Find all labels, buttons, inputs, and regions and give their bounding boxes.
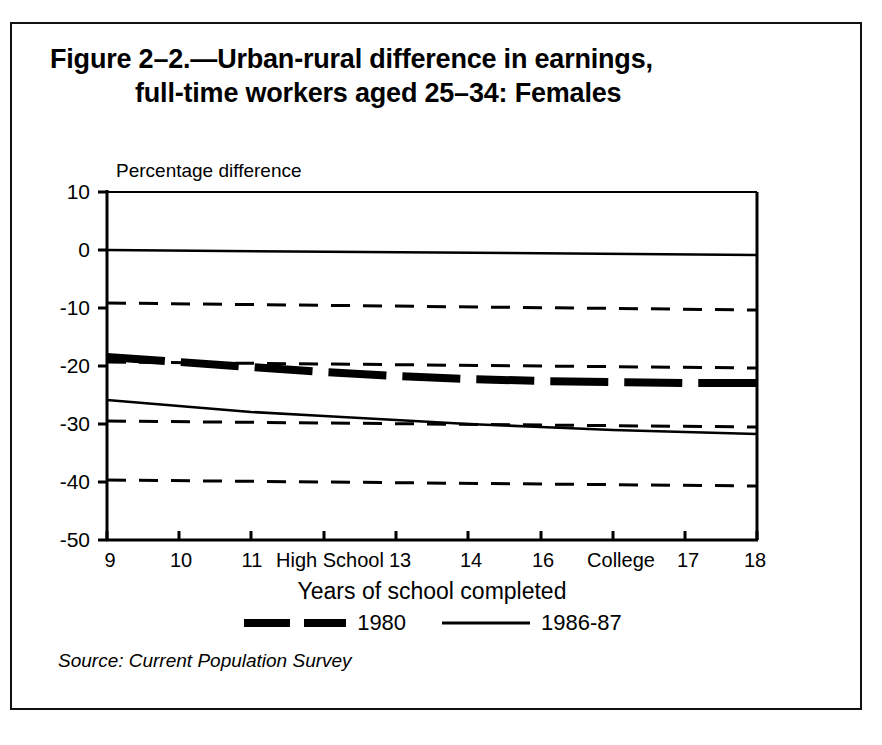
x-tick-label-11: 11 [242, 550, 263, 570]
x-tick-label-10: 10 [170, 550, 192, 570]
y-tick-label-neg40: -40 [28, 471, 90, 492]
x-tick-label-college: College [587, 550, 655, 570]
series-line-1986-87 [107, 400, 757, 434]
chart-legend: 1980 1986-87 [107, 612, 757, 634]
y-tick-label-0: 0 [28, 239, 90, 260]
legend-swatch-1980 [242, 616, 348, 630]
legend-entry-1980: 1980 [242, 612, 406, 634]
x-tick-label-9: 9 [104, 550, 115, 570]
x-tick-label-16: 16 [532, 550, 554, 570]
x-axis-title: Years of school completed [107, 578, 757, 605]
chart-plot-area: Percentage difference 10 0 -10 -20 -30 -… [0, 0, 882, 745]
y-tick-label-neg50: -50 [28, 529, 90, 550]
x-tick-label-13: 13 [389, 550, 411, 570]
y-tick-label-neg20: -20 [28, 355, 90, 376]
legend-swatch-1986-87 [440, 616, 532, 630]
x-tick-label-18: 18 [744, 550, 766, 570]
y-tick-label-neg30: -30 [28, 413, 90, 434]
source-note: Source: Current Population Survey [58, 650, 352, 672]
y-tick-label-10: 10 [28, 181, 90, 202]
gridlines [107, 303, 757, 486]
series-line-1980 [107, 357, 757, 383]
x-tick-label-14: 14 [460, 550, 482, 570]
x-tick-label-17: 17 [677, 550, 699, 570]
y-axis-title: Percentage difference [116, 160, 302, 182]
x-tick-label-high-school: High School [276, 550, 384, 570]
legend-label-1986-87: 1986-87 [541, 612, 622, 634]
zero-reference-line [107, 250, 757, 255]
legend-entry-1986-87: 1986-87 [440, 612, 622, 634]
legend-label-1980: 1980 [357, 612, 406, 634]
y-tick-label-neg10: -10 [28, 297, 90, 318]
figure-root: Figure 2–2.—Urban-rural difference in ea… [0, 0, 882, 745]
gridline-neg40 [107, 480, 757, 486]
gridline-neg10 [107, 303, 757, 310]
